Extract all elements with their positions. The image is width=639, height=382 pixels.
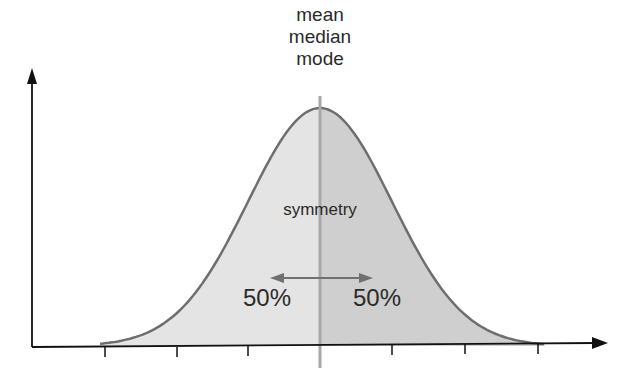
left-percent-label: 50% xyxy=(222,284,312,312)
y-axis-arrow-icon xyxy=(27,68,37,84)
mean-median-mode-label: mean median mode xyxy=(270,4,370,70)
x-axis-arrow-icon xyxy=(592,337,608,349)
right-percent-label: 50% xyxy=(332,284,422,312)
mode-label: mode xyxy=(270,48,370,70)
symmetry-label: symmetry xyxy=(250,200,390,220)
right-half-area xyxy=(100,108,545,346)
mean-label: mean xyxy=(270,4,370,26)
median-label: median xyxy=(270,26,370,48)
